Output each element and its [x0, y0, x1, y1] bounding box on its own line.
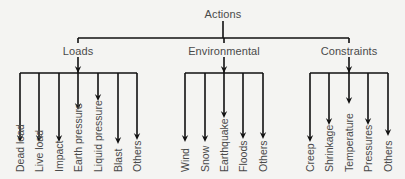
- leaf-impact: Impact: [53, 140, 65, 172]
- leaf-dead-load: Dead load: [14, 124, 26, 172]
- group-label-constraints: Constraints: [321, 45, 378, 57]
- group-label-environmental: Environmental: [188, 45, 260, 57]
- leaf-floods: Floods: [237, 140, 249, 172]
- group-label-loads: Loads: [63, 45, 93, 57]
- leaf-wind: Wind: [179, 148, 191, 172]
- leaf-shrinkage: Shrinkage: [323, 125, 335, 172]
- leaf-temperature: Temperature: [343, 113, 355, 172]
- leaf-snow: Snow: [199, 146, 211, 172]
- leaf-earth-pressure: Earth pressure: [72, 103, 84, 172]
- leaf-live-load: Live load: [33, 130, 45, 172]
- leaf-liquid-pressure: Liquid pressure: [92, 100, 104, 172]
- leaf-earthquake: Earthquake: [218, 118, 230, 172]
- leaf-loads-others: Others: [131, 140, 143, 172]
- leaf-pressures: Pressures: [362, 125, 374, 172]
- actions-hierarchy-diagram: Actions Loads Environmental Constraints …: [0, 0, 405, 179]
- leaf-blast: Blast: [112, 149, 124, 172]
- leaf-creep: Creep: [304, 143, 316, 172]
- root-node-actions: Actions: [205, 8, 242, 20]
- leaf-environmental-others: Others: [257, 140, 269, 172]
- leaf-constraints-others: Others: [382, 140, 394, 172]
